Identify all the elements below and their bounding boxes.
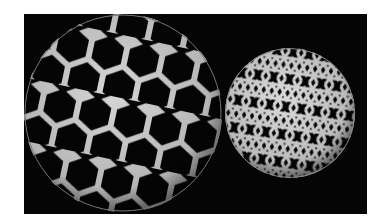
large-hexagonal-woven-sphere: [24, 14, 222, 212]
photo: [24, 14, 367, 214]
woven-spheres-illustration: [24, 14, 367, 214]
small-triangular-woven-sphere: [225, 48, 355, 178]
